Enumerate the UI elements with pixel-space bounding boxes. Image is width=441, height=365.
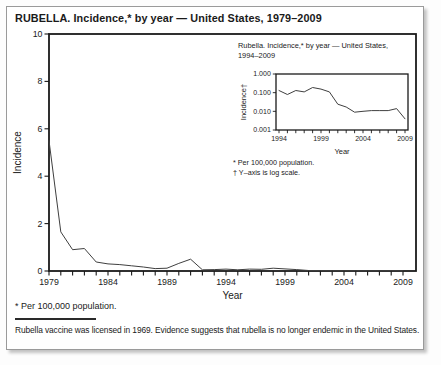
inset-ytick-label: 0.010 xyxy=(253,108,271,115)
main-xtick-label: 2004 xyxy=(334,277,354,287)
main-plot-frame xyxy=(49,34,416,271)
main-xtick-label: 1989 xyxy=(157,277,177,287)
main-ytick-label: 2 xyxy=(38,219,43,229)
inset-series-line xyxy=(279,88,405,119)
inset-title-line1: Rubella. Incidence,* by year — United St… xyxy=(238,41,388,51)
inset-xtick-label: 1999 xyxy=(313,135,329,142)
inset-footnote-logscale: † Y–axis is log scale. xyxy=(233,168,314,178)
inset-footnotes: * Per 100,000 population. † Y–axis is lo… xyxy=(233,158,314,177)
main-ytick-label: 10 xyxy=(33,29,43,39)
main-xtick-label: 1994 xyxy=(216,277,236,287)
inset-ytick-label: 1.000 xyxy=(253,70,271,77)
inset-ytick-label: 0.001 xyxy=(253,126,271,133)
inset-ylabel: Incidence† xyxy=(239,84,248,120)
inset-ytick-label: 0.100 xyxy=(253,89,271,96)
main-ytick-label: 6 xyxy=(38,124,43,134)
inset-chart-title: Rubella. Incidence,* by year — United St… xyxy=(238,41,388,60)
inset-xtick-label: 1994 xyxy=(271,135,287,142)
main-ytick-label: 0 xyxy=(38,266,43,276)
main-ylabel: Incidence xyxy=(12,131,23,174)
main-ytick-label: 8 xyxy=(38,76,43,86)
main-xtick-label: 2009 xyxy=(393,277,413,287)
main-series-line xyxy=(49,141,403,271)
inset-xtick-label: 2009 xyxy=(397,135,413,142)
inset-plot-frame xyxy=(276,74,408,130)
main-ytick-label: 4 xyxy=(38,171,43,181)
inset-title-line2: 1994–2009 xyxy=(238,51,388,61)
vaccine-note: Rubella vaccine was licensed in 1969. Ev… xyxy=(15,325,428,336)
footnote-population: * Per 100,000 population. xyxy=(15,301,117,311)
footnote-divider xyxy=(15,318,96,320)
inset-footnote-population: * Per 100,000 population. xyxy=(233,158,314,168)
main-xtick-label: 1979 xyxy=(39,277,59,287)
inset-xtick-label: 2004 xyxy=(355,135,371,142)
main-xtick-label: 1999 xyxy=(275,277,295,287)
figure-panel: RUBELLA. Incidence,* by year — United St… xyxy=(6,6,424,350)
main-xlabel: Year xyxy=(222,290,243,301)
inset-xlabel: Year xyxy=(334,147,350,156)
main-xtick-label: 1984 xyxy=(98,277,118,287)
